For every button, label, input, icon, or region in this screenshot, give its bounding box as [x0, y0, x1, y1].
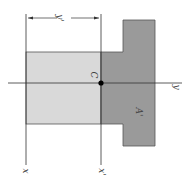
centroid-label: C — [89, 72, 99, 79]
x-axis-label: x — [21, 168, 31, 173]
dimension-label: y' — [55, 13, 65, 22]
arrow-left-icon — [28, 17, 33, 20]
light-region — [26, 52, 101, 124]
arrow-right-icon — [94, 17, 99, 20]
x-prime-axis-label: x' — [97, 168, 107, 176]
centroid-point — [98, 80, 103, 85]
y-axis-label: y — [172, 83, 182, 90]
area-label: A' — [134, 107, 144, 117]
composite-area-diagram: y' C y A' x x' — [0, 0, 190, 185]
